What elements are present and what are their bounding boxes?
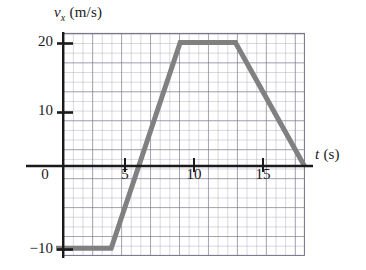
y-axis-subscript: x xyxy=(61,12,66,23)
x-tick-label-10: 10 xyxy=(180,166,208,183)
y-tick-label-20: 20 xyxy=(23,33,53,50)
y-axis-symbol: v xyxy=(54,4,61,20)
velocity-time-graph: vx(m/s) t(s) 20 10 −10 0 5 10 15 xyxy=(0,0,366,270)
x-tick-label-5: 5 xyxy=(113,166,137,183)
y-tick-label-10: 10 xyxy=(23,102,53,119)
x-axis-title: t(s) xyxy=(315,146,340,163)
y-tick-label-neg-10: −10 xyxy=(11,240,53,257)
y-axis-title: vx(m/s) xyxy=(54,4,102,23)
y-axis-unit: (m/s) xyxy=(70,4,103,20)
x-tick-label-15: 15 xyxy=(249,166,277,183)
x-axis-unit: (s) xyxy=(323,146,339,162)
x-axis-symbol: t xyxy=(315,146,319,162)
x-tick-label-0: 0 xyxy=(34,166,56,183)
grid-major xyxy=(63,33,304,255)
plot-canvas xyxy=(0,0,366,270)
